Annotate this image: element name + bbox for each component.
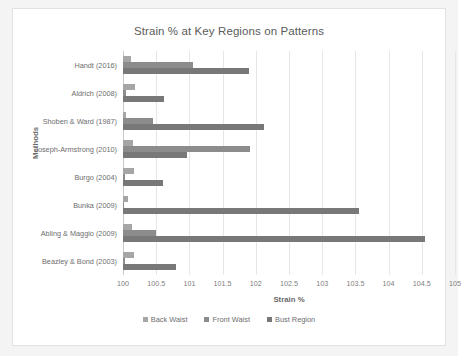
category-group: Bunka (2009) (123, 191, 455, 219)
y-category-label: Shoben & Ward (1987) (43, 117, 117, 126)
category-group: Joseph-Armstrong (2010) (123, 135, 455, 163)
x-tick-label: 101.5 (214, 279, 232, 288)
bar-bust-region (123, 208, 359, 214)
category-group: Beazley & Bond (2003) (123, 247, 455, 275)
y-category-label: Handt (2016) (74, 61, 117, 70)
legend-item[interactable]: Back Waist (143, 315, 188, 324)
bar-bust-region (123, 152, 187, 158)
category-group: Burgo (2004) (123, 163, 455, 191)
bar-bust-region (123, 236, 425, 242)
bar-bust-region (123, 124, 264, 130)
x-tick-label: 102 (250, 279, 262, 288)
legend-item[interactable]: Front Waist (204, 315, 250, 324)
bar-bust-region (123, 96, 164, 102)
legend-label: Back Waist (151, 315, 188, 324)
chart-legend: Back WaistFront WaistBust Region (13, 315, 445, 324)
bar-bust-region (123, 180, 163, 186)
legend-item[interactable]: Bust Region (267, 315, 315, 324)
legend-label: Bust Region (275, 315, 315, 324)
chart-container: Strain % at Key Regions on Patterns 1001… (12, 8, 446, 346)
bar-bust-region (123, 264, 176, 270)
x-tick-label: 103.5 (346, 279, 364, 288)
x-tick-label: 100 (117, 279, 129, 288)
chart-title: Strain % at Key Regions on Patterns (13, 25, 445, 37)
y-category-label: Aldrich (2008) (72, 89, 117, 98)
x-tick-label: 100.5 (147, 279, 165, 288)
x-axis-title: Strain % (123, 295, 455, 304)
x-tick-label: 104.5 (413, 279, 431, 288)
y-axis-title: Methods (31, 127, 40, 159)
legend-swatch-icon (143, 317, 148, 322)
gridline-105 (455, 51, 456, 275)
bar-bust-region (123, 68, 249, 74)
category-group: Shoben & Ward (1987) (123, 107, 455, 135)
category-group: Abling & Maggio (2009) (123, 219, 455, 247)
legend-swatch-icon (204, 317, 209, 322)
category-group: Handt (2016) (123, 51, 455, 79)
y-category-label: Beazley & Bond (2003) (42, 257, 117, 266)
plot-area: 100100.5101101.5102102.5103103.5104104.5… (123, 51, 455, 275)
legend-swatch-icon (267, 317, 272, 322)
x-tick-label: 103 (316, 279, 328, 288)
y-category-label: Bunka (2009) (73, 201, 117, 210)
y-category-label: Abling & Maggio (2009) (41, 229, 117, 238)
x-tick-label: 102.5 (280, 279, 298, 288)
y-category-label: Burgo (2004) (74, 173, 117, 182)
x-tick-label: 104 (383, 279, 395, 288)
x-tick-label: 105 (449, 279, 461, 288)
x-tick-label: 101 (183, 279, 195, 288)
category-group: Aldrich (2008) (123, 79, 455, 107)
y-category-label: Joseph-Armstrong (2010) (34, 145, 117, 154)
legend-label: Front Waist (212, 315, 250, 324)
